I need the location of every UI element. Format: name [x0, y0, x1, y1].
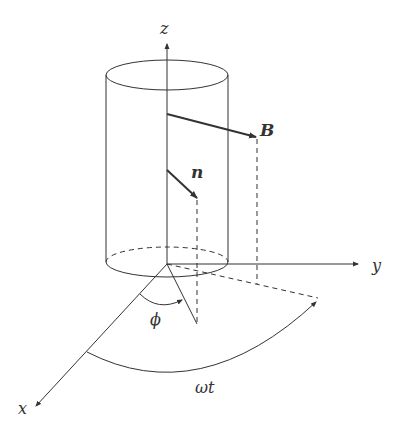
diagram-canvas: z y x B n ϕ ωt	[0, 0, 407, 431]
b-vector-arrow	[167, 114, 256, 137]
angle-arcs	[87, 294, 316, 372]
z-axis-label: z	[159, 19, 169, 38]
b-field-label: B	[259, 120, 274, 140]
b-azimuth-dashed	[167, 264, 318, 298]
x-axis	[36, 264, 167, 406]
n-vector-label: n	[191, 162, 203, 182]
axes	[36, 44, 358, 406]
normal-vector-group	[167, 170, 197, 324]
omega-t-angle-label: ωt	[195, 378, 215, 397]
phi-angle-label: ϕ	[150, 310, 161, 329]
field-vector-group	[167, 114, 318, 298]
y-axis-label: y	[371, 256, 382, 275]
phi-arc	[140, 294, 182, 305]
omega-t-arc	[87, 302, 316, 372]
n-azimuth-line	[167, 264, 197, 324]
x-axis-label: x	[18, 399, 27, 418]
